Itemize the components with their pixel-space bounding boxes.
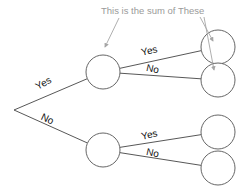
leaf-bottom-2[interactable]: [201, 151, 235, 185]
sum-annotation-text: This is the sum of These: [101, 5, 204, 16]
branch-label-bottom-yes: Yes: [140, 127, 158, 141]
diagram-canvas: YesNoYesNoYesNo This is the sum of These: [0, 0, 242, 188]
branch-label-root-yes: Yes: [33, 74, 53, 92]
node-circle-group: [86, 30, 235, 185]
branch-label-top-yes: Yes: [140, 43, 158, 57]
node-top[interactable]: [86, 55, 120, 89]
leaf-top-1[interactable]: [201, 30, 235, 64]
annotation-arrow-group: [105, 17, 214, 70]
branch-label-root-no: No: [39, 111, 56, 127]
node-bottom[interactable]: [86, 133, 120, 167]
branch-line-bottom-yes: [120, 135, 201, 148]
branch-line-top-yes: [120, 51, 202, 69]
leaf-bottom-1[interactable]: [201, 115, 235, 149]
leaf-top-2[interactable]: [201, 63, 235, 97]
branch-label-top-no: No: [145, 62, 160, 76]
branch-line-top-no: [120, 73, 201, 79]
arrow-to-sum-node: [105, 18, 119, 47]
decision-tree-svg: YesNoYesNoYesNo This is the sum of These: [0, 0, 242, 188]
branch-line-bottom-no: [120, 153, 201, 166]
